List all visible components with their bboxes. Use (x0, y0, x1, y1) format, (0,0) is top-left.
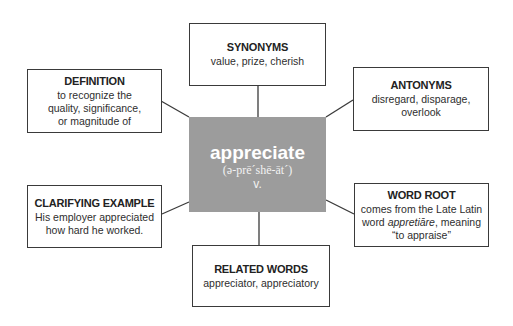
definition-body: to recognize the quality, significance, … (48, 89, 141, 128)
edge-word-root (326, 200, 354, 214)
pronunciation: (ə-prē´shē-āt´) (223, 163, 292, 177)
part-of-speech: v. (253, 177, 261, 192)
related-words-body: appreciator, appreciatory (203, 277, 319, 290)
word-root-box: WORD ROOT comes from the Late Latin word… (354, 183, 489, 247)
definition-box: DEFINITION to recognize the quality, sig… (27, 69, 162, 133)
related-words-title: RELATED WORDS (214, 263, 308, 275)
definition-title: DEFINITION (64, 75, 124, 87)
edge-clarifying-example (162, 202, 189, 214)
synonyms-box: SYNONYMS value, prize, cherish (189, 23, 326, 86)
central-word-box: appreciate (ə-prē´shē-āt´) v. (189, 117, 326, 212)
edge-antonyms (326, 100, 353, 117)
antonyms-title: ANTONYMS (390, 79, 451, 91)
word-root-body: comes from the Late Latin word appretiār… (361, 203, 482, 242)
central-word: appreciate (210, 142, 305, 163)
related-words-box: RELATED WORDS appreciator, appreciatory (192, 245, 330, 307)
synonyms-title: SYNONYMS (227, 41, 288, 53)
clarifying-example-title: CLARIFYING EXAMPLE (35, 197, 155, 209)
word-root-title: WORD ROOT (388, 189, 456, 201)
edge-definition (161, 101, 189, 117)
clarifying-example-body: His employer appreciated how hard he wor… (35, 211, 154, 237)
clarifying-example-box: CLARIFYING EXAMPLE His employer apprecia… (27, 185, 162, 248)
latin-root: appretiāre (388, 216, 435, 228)
antonyms-body: disregard, disparage, overlook (372, 93, 471, 119)
antonyms-box: ANTONYMS disregard, disparage, overlook (353, 67, 489, 131)
synonyms-body: value, prize, cherish (211, 55, 304, 68)
